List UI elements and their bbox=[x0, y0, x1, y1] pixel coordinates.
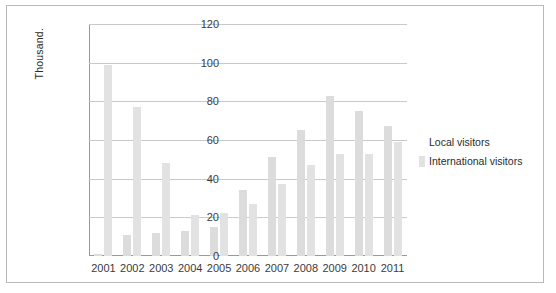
legend-swatch-local bbox=[419, 137, 425, 148]
bar bbox=[307, 165, 315, 256]
legend-item-local: Local visitors bbox=[419, 136, 539, 148]
bar-group bbox=[349, 24, 378, 256]
bar bbox=[152, 233, 160, 256]
bar bbox=[336, 154, 344, 256]
bar bbox=[249, 204, 257, 256]
y-axis-title: Thousand. bbox=[33, 28, 45, 79]
bar-group bbox=[89, 24, 118, 256]
bar bbox=[220, 213, 228, 256]
chart-legend: Local visitors International visitors bbox=[419, 136, 539, 174]
y-axis-tick-label: 20 bbox=[179, 211, 219, 223]
chart-frame: Thousand. Local visitors International v… bbox=[6, 5, 544, 283]
plot-inner bbox=[89, 24, 407, 256]
plot-area bbox=[89, 24, 407, 256]
bar bbox=[278, 184, 286, 256]
bar bbox=[268, 157, 276, 256]
bar bbox=[355, 111, 363, 256]
bar bbox=[326, 96, 334, 256]
bar-group bbox=[234, 24, 263, 256]
bar bbox=[365, 154, 373, 256]
bar bbox=[123, 235, 131, 256]
bar bbox=[104, 65, 112, 256]
bar bbox=[162, 163, 170, 256]
bar bbox=[384, 126, 392, 256]
bar-group bbox=[118, 24, 147, 256]
bar-group bbox=[262, 24, 291, 256]
y-axis-tick-label: 60 bbox=[179, 134, 219, 146]
bar-group bbox=[378, 24, 407, 256]
y-axis-tick-label: 100 bbox=[179, 57, 219, 69]
bar bbox=[239, 190, 247, 256]
y-axis-tick-label: 40 bbox=[179, 173, 219, 185]
legend-label-international: International visitors bbox=[429, 155, 522, 167]
legend-item-international: International visitors bbox=[419, 155, 539, 167]
legend-swatch-international bbox=[419, 156, 425, 167]
y-axis-tick-label: 120 bbox=[179, 18, 219, 30]
y-axis-tick-label: 80 bbox=[179, 95, 219, 107]
y-axis-tick-label: 0 bbox=[179, 250, 219, 262]
bar-group bbox=[320, 24, 349, 256]
bar bbox=[94, 254, 102, 256]
legend-label-local: Local visitors bbox=[429, 136, 490, 148]
bar bbox=[297, 130, 305, 256]
bar bbox=[133, 107, 141, 256]
bar-group bbox=[147, 24, 176, 256]
bar bbox=[394, 142, 402, 256]
x-axis-tick-label: 2011 bbox=[372, 262, 413, 274]
bar-group bbox=[291, 24, 320, 256]
